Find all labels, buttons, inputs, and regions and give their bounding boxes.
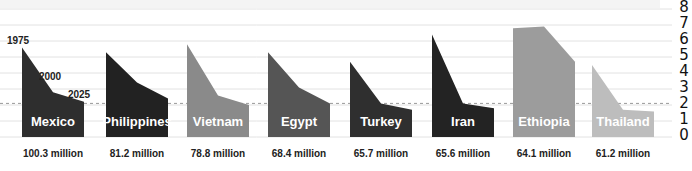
population-label: 68.4 million [272, 148, 326, 159]
country-panel-thailand: Thailand61.2 million [592, 65, 654, 159]
country-panel-philippines: Philippines81.2 million [102, 52, 171, 159]
population-label: 100.3 million [23, 148, 83, 159]
y-axis: 012345678 [679, 0, 689, 144]
year-label: 1975 [7, 35, 30, 46]
year-label: 2000 [39, 71, 62, 82]
country-label: Thailand [596, 114, 650, 129]
y-tick-label: 2 [679, 94, 689, 112]
country-panel-turkey: Turkey65.7 million [350, 62, 412, 159]
country-panel-mexico: Mexico100.3 million [22, 47, 84, 159]
year-label: 2025 [68, 89, 91, 100]
country-label: Ethiopia [518, 114, 570, 129]
y-tick-label: 0 [679, 126, 689, 144]
country-label: Vietnam [193, 114, 243, 129]
country-label: Turkey [360, 114, 402, 129]
country-panel-iran: Iran65.6 million [432, 35, 494, 159]
country-panel-egypt: Egypt68.4 million [268, 52, 330, 159]
population-label: 61.2 million [596, 148, 650, 159]
population-label: 65.6 million [436, 148, 490, 159]
y-tick-label: 8 [679, 0, 689, 16]
population-label: 64.1 million [517, 148, 571, 159]
y-tick-label: 6 [679, 30, 689, 48]
population-label: 78.8 million [191, 148, 245, 159]
y-tick-label: 1 [679, 110, 689, 128]
country-label: Egypt [281, 114, 318, 129]
y-tick-label: 7 [679, 14, 689, 32]
country-label: Iran [451, 114, 475, 129]
country-areas: Mexico100.3 millionPhilippines81.2 milli… [22, 27, 654, 159]
country-panel-ethiopia: Ethiopia64.1 million [513, 27, 575, 159]
y-tick-label: 5 [679, 46, 689, 64]
country-label: Philippines [102, 114, 171, 129]
country-panel-vietnam: Vietnam78.8 million [187, 44, 249, 159]
country-label: Mexico [31, 114, 75, 129]
population-label: 81.2 million [110, 148, 164, 159]
population-label: 65.7 million [354, 148, 408, 159]
top-band [0, 0, 660, 8]
y-tick-label: 3 [679, 78, 689, 96]
fertility-chart: Mexico100.3 millionPhilippines81.2 milli… [0, 0, 692, 171]
y-tick-label: 4 [679, 62, 689, 80]
